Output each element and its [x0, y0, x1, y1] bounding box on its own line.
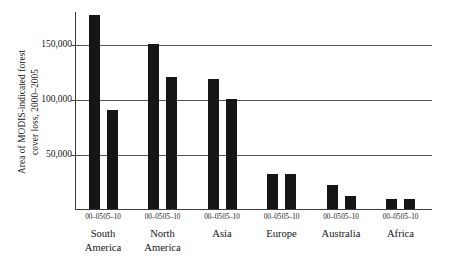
period-tick-label: 00–05	[85, 213, 102, 221]
gridline-150000	[75, 45, 432, 46]
bar	[285, 174, 296, 209]
y-tick-label: 150,000	[12, 39, 72, 49]
bar	[327, 185, 338, 209]
period-tick-label: 05–10	[282, 213, 299, 221]
region-label: Asia	[212, 227, 231, 241]
region-label-line: Australia	[322, 227, 361, 241]
period-tick-label: 05–10	[341, 213, 358, 221]
bar	[404, 199, 415, 209]
bar	[107, 110, 118, 209]
region-label-line: Asia	[212, 227, 231, 241]
region-label: Africa	[387, 227, 414, 241]
region-label: Australia	[322, 227, 361, 241]
figure: Area of MODIS-indicated forest cover los…	[0, 0, 456, 273]
y-axis-line	[75, 12, 76, 210]
region-label-line: America	[85, 241, 121, 255]
bar	[148, 44, 159, 209]
region-label-line: Europe	[266, 227, 297, 241]
bar	[267, 174, 278, 209]
period-tick-label: 00–05	[383, 213, 400, 221]
bar	[386, 199, 397, 209]
region-label-line: North	[144, 227, 180, 241]
region-label-line: South	[85, 227, 121, 241]
y-tick-mark	[71, 45, 76, 46]
y-tick-mark	[71, 155, 76, 156]
period-tick-label: 05–10	[222, 213, 239, 221]
y-tick-mark	[71, 100, 76, 101]
y-tick-label: 50,000	[12, 149, 72, 159]
period-tick-label: 00–05	[264, 213, 281, 221]
region-label: NorthAmerica	[144, 227, 180, 255]
plot-area	[75, 12, 432, 210]
bar	[166, 77, 177, 209]
period-tick-label: 00–05	[323, 213, 340, 221]
x-axis-line	[75, 209, 432, 210]
bar	[208, 79, 219, 209]
region-label-line: Africa	[387, 227, 414, 241]
gridline-100000	[75, 100, 432, 101]
bar	[345, 196, 356, 209]
region-label: SouthAmerica	[85, 227, 121, 255]
region-label-line: America	[144, 241, 180, 255]
period-tick-label: 00–05	[145, 213, 162, 221]
period-tick-label: 05–10	[103, 213, 120, 221]
bar	[226, 99, 237, 209]
period-tick-label: 00–05	[204, 213, 221, 221]
region-label: Europe	[266, 227, 297, 241]
period-tick-label: 05–10	[163, 213, 180, 221]
gridline-50000	[75, 155, 432, 156]
y-tick-label: 100,000	[12, 94, 72, 104]
period-tick-label: 05–10	[401, 213, 418, 221]
bar	[89, 15, 100, 209]
